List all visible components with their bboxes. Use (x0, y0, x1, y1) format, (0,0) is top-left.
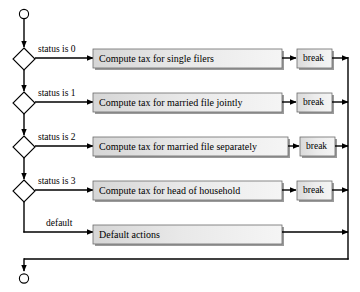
default-condition-label: default (46, 219, 72, 229)
decision-diamond-2 (13, 136, 35, 158)
start-node-circle (19, 9, 28, 18)
decision-diamond-1 (13, 92, 35, 114)
break-label-1: break (303, 98, 324, 108)
action-label-1: Compute tax for married file jointly (99, 98, 243, 108)
flowchart-canvas: status is 0 status is 1 status is 2 stat… (0, 0, 360, 292)
condition-label-3: status is 3 (38, 177, 75, 187)
condition-label-1: status is 1 (38, 89, 75, 99)
break-label-0: break (303, 54, 324, 64)
condition-label-2: status is 2 (38, 133, 75, 143)
action-label-0: Compute tax for single filers (99, 54, 214, 64)
action-label-3: Compute tax for head of household (99, 186, 240, 196)
end-node-circle (19, 274, 28, 283)
break-label-2: break (306, 142, 327, 152)
action-label-2: Compute tax for married file separately (99, 142, 257, 152)
default-action-label: Default actions (99, 230, 160, 240)
decision-diamond-0 (13, 48, 35, 70)
break-label-3: break (303, 186, 324, 196)
decision-diamond-3 (13, 180, 35, 202)
condition-label-0: status is 0 (38, 45, 75, 55)
